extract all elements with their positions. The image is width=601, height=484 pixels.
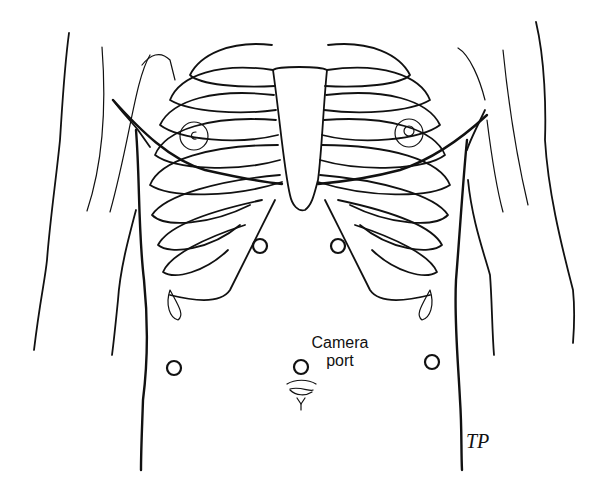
artist-signature: TP — [466, 430, 489, 453]
left-arm-inner-line — [87, 47, 104, 211]
right-lat-line — [468, 180, 494, 355]
camera-port-marker — [294, 360, 308, 374]
upper-right-port-marker — [331, 239, 345, 253]
camera-port-label-line2: port — [308, 352, 372, 370]
lower-left-port-marker — [167, 361, 181, 375]
lower-right-port-marker — [425, 355, 439, 369]
upper-left-port-marker — [253, 239, 267, 253]
right-arm-outline — [536, 22, 574, 343]
right-flank-outline — [455, 140, 467, 470]
left-arm-outline — [34, 33, 69, 350]
anatomy-drawing — [0, 0, 601, 484]
sternum — [273, 67, 327, 210]
umbilicus — [287, 380, 316, 410]
camera-port-label: Camera port — [308, 334, 372, 370]
left-clavicle — [142, 55, 175, 80]
left-lat-line — [112, 210, 136, 355]
right-nipple — [395, 119, 423, 147]
camera-port-label-line1: Camera — [308, 334, 372, 352]
right-arm-inner-line — [503, 50, 528, 205]
right-clavicle — [458, 48, 485, 100]
right-arm-inner-line-2 — [487, 120, 503, 212]
left-flank-outline — [136, 130, 147, 470]
torso-illustration: Camera port TP — [0, 0, 601, 484]
